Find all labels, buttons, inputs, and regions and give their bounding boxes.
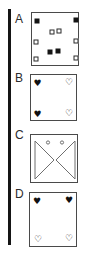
option-c-box[interactable] bbox=[30, 134, 78, 183]
option-d-label: D bbox=[15, 188, 27, 201]
option-c-label: C bbox=[15, 129, 27, 142]
option-a-box[interactable] bbox=[31, 12, 79, 66]
square-filled-icon bbox=[34, 19, 39, 24]
square-open-icon bbox=[74, 39, 79, 44]
heart-filled-icon: ♥ bbox=[33, 110, 41, 119]
square-filled-icon bbox=[74, 17, 79, 22]
square-open-icon bbox=[34, 57, 39, 62]
square-filled-icon bbox=[55, 49, 60, 54]
heart-open-icon: ♡ bbox=[34, 235, 42, 244]
heart-open-icon: ♡ bbox=[65, 109, 73, 118]
left-vertical-bar bbox=[8, 9, 11, 245]
heart-open-icon: ♡ bbox=[65, 234, 73, 243]
square-open-icon bbox=[56, 29, 61, 34]
options-figure: A B ♥♡♥♡ C D ♥♥♡♡ bbox=[0, 0, 85, 253]
triangle-icon bbox=[56, 141, 75, 179]
heart-filled-icon: ♥ bbox=[33, 79, 41, 88]
square-open-icon bbox=[49, 30, 54, 35]
small-circle-icon bbox=[46, 141, 49, 144]
heart-filled-icon: ♥ bbox=[33, 197, 41, 206]
heart-open-icon: ♡ bbox=[65, 77, 73, 86]
square-filled-icon bbox=[48, 50, 53, 55]
facing-triangles-graphic bbox=[31, 135, 77, 182]
square-open-icon bbox=[34, 40, 39, 45]
square-open-icon bbox=[74, 55, 79, 60]
small-circle-icon bbox=[60, 141, 63, 144]
option-b-box[interactable]: ♥♡♥♡ bbox=[30, 74, 77, 121]
option-d-box[interactable]: ♥♥♡♡ bbox=[29, 192, 77, 247]
option-b-label: B bbox=[15, 72, 27, 85]
option-a-label: A bbox=[15, 13, 27, 26]
triangle-icon bbox=[35, 141, 54, 179]
heart-filled-icon: ♥ bbox=[65, 196, 73, 205]
